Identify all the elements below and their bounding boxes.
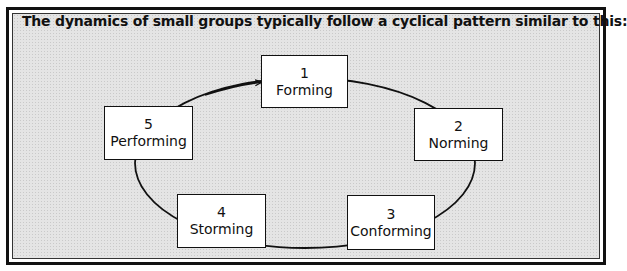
stage-number: 5 xyxy=(105,116,192,133)
stage-number: 2 xyxy=(415,118,502,135)
stage-label: Performing xyxy=(105,133,192,150)
stage-number: 4 xyxy=(178,204,265,221)
stage-label: Norming xyxy=(415,135,502,152)
stage-number: 1 xyxy=(262,65,347,82)
stage-conforming: 3 Conforming xyxy=(347,195,435,250)
stage-forming: 1 Forming xyxy=(261,55,348,108)
stage-label: Storming xyxy=(178,221,265,238)
stage-storming: 4 Storming xyxy=(177,194,266,248)
stage-performing: 5 Performing xyxy=(104,106,193,160)
stage-label: Forming xyxy=(262,82,347,99)
stage-number: 3 xyxy=(348,206,434,223)
arrow-into-forming xyxy=(205,82,262,95)
stage-label: Conforming xyxy=(348,223,434,240)
stage-norming: 2 Norming xyxy=(414,108,503,161)
